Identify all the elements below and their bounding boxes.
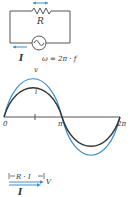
tick-label-pi: π [57,120,63,128]
omega-formula: ω = 2π · f [42,55,78,63]
resistor-label: R [36,16,44,26]
current-curve-label: i [35,88,37,96]
current-arrow-icon [13,46,27,49]
voltage-phasor-label: V [46,178,52,186]
wire [10,11,32,43]
circuit: R I ω = 2π · f [10,2,78,64]
ac-resistor-diagram: R I ω = 2π · f v i 0 π 2π R · I [0,0,138,196]
tick-label-0: 0 [3,120,8,128]
phasor-diagram: R · I V I [9,173,52,197]
resistor-icon [32,8,51,14]
current-phasor-arrow-icon [9,183,41,186]
voltage-drop-label: R · I [15,173,31,181]
voltage-double-arrow-icon [33,2,48,5]
tick-label-2pi: 2π [116,120,126,128]
waveform-plot: v i 0 π 2π [3,66,126,155]
voltage-curve-label: v [34,66,38,74]
voltage-phasor-arrow-icon [9,180,44,183]
wire [51,11,70,43]
current-label: I [18,53,24,63]
current-phasor-label: I [17,187,23,196]
